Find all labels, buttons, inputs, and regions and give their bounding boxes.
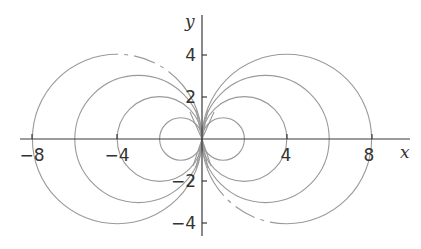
axes bbox=[20, 15, 410, 236]
x-axis-label: x bbox=[400, 142, 410, 162]
y-tick-label-4: 4 bbox=[185, 45, 196, 65]
x-tick-label-m4: −4 bbox=[104, 145, 129, 165]
x-tick-label-4: 4 bbox=[281, 145, 292, 165]
x-tick-label-8: 8 bbox=[364, 145, 375, 165]
y-tick-label-m2: −2 bbox=[171, 171, 196, 191]
tick-labels: −8 −4 4 8 4 2 −2 −4 x y bbox=[19, 11, 410, 233]
y-tick-label-m4: −4 bbox=[171, 213, 196, 233]
x-tick-label-m8: −8 bbox=[19, 145, 44, 165]
circle-family-plot: −8 −4 4 8 4 2 −2 −4 x y bbox=[0, 0, 421, 249]
y-axis-label: y bbox=[184, 11, 195, 31]
y-tick-label-2: 2 bbox=[185, 87, 196, 107]
